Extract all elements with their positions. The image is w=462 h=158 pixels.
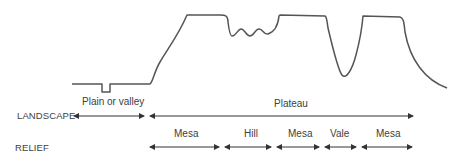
- segment-label-plain-or-valley: Plain or valley: [82, 96, 144, 107]
- segment-label-mesa-3: Mesa: [376, 128, 400, 139]
- segment-label-vale: Vale: [330, 128, 349, 139]
- segment-label-plateau: Plateau: [274, 98, 308, 109]
- terrain-profile-line: [72, 15, 447, 92]
- segment-label-hill: Hill: [244, 128, 258, 139]
- row-label-relief: RELIEF: [15, 142, 49, 153]
- segment-label-mesa-1: Mesa: [174, 128, 198, 139]
- segment-label-mesa-2: Mesa: [288, 128, 312, 139]
- row-label-landscape: LANDSCAPE: [17, 110, 75, 121]
